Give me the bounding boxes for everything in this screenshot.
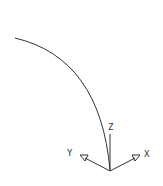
x-arrowhead-icon bbox=[132, 155, 140, 161]
x-axis-line bbox=[110, 158, 135, 171]
z-axis-label: Z bbox=[108, 122, 114, 132]
y-axis-label: Y bbox=[67, 148, 73, 158]
arc-curve[interactable] bbox=[15, 38, 110, 170]
y-axis-line bbox=[85, 158, 110, 171]
drawing-canvas[interactable]: Z Y X bbox=[0, 0, 163, 186]
ucs-icon: Z Y X bbox=[67, 122, 150, 171]
x-axis-label: X bbox=[144, 149, 150, 159]
y-arrowhead-icon bbox=[80, 155, 88, 161]
